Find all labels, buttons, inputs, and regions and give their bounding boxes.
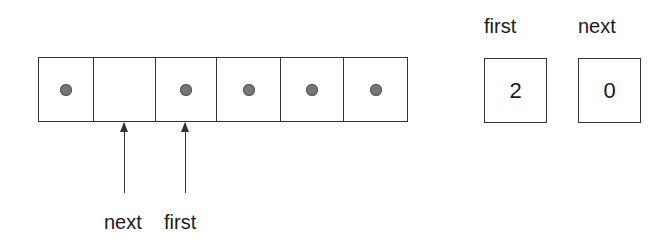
- array-cell-1: [94, 58, 156, 121]
- next-variable-value: 0: [603, 78, 615, 104]
- first-variable-box: 2: [484, 58, 547, 123]
- occupied-dot-icon: [180, 84, 192, 96]
- next-variable-box: 0: [578, 58, 641, 123]
- first-pointer-arrow-icon: [185, 123, 186, 193]
- circular-array: [38, 57, 408, 122]
- occupied-dot-icon: [370, 84, 382, 96]
- array-cell-4: [281, 58, 344, 121]
- occupied-dot-icon: [60, 84, 72, 96]
- array-cell-5: [344, 58, 407, 121]
- next-pointer-label: next: [104, 212, 142, 232]
- next-variable-label: next: [578, 16, 616, 36]
- occupied-dot-icon: [306, 84, 318, 96]
- first-variable-value: 2: [509, 78, 521, 104]
- array-cell-3: [217, 58, 281, 121]
- next-pointer-arrow-icon: [124, 123, 125, 193]
- first-variable-label: first: [484, 16, 516, 36]
- first-pointer-label: first: [164, 212, 196, 232]
- array-cell-0: [39, 58, 94, 121]
- array-cell-2: [156, 58, 217, 121]
- occupied-dot-icon: [243, 84, 255, 96]
